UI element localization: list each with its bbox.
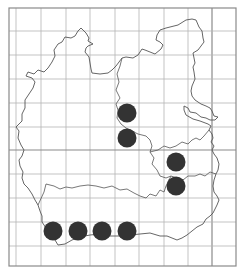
district-boundary [38,176,171,205]
occurrence-dot [118,222,137,241]
distribution-map [0,0,248,279]
occurrence-dot [167,153,186,172]
region-outline [16,19,219,245]
occurrence-dot [93,222,112,241]
occurrence-dot [118,104,137,123]
occurrence-dot [167,177,186,196]
occurrence-dot [69,222,88,241]
district-boundary [150,130,209,152]
occurrence-dot [44,222,63,241]
occurrence-dot [118,129,137,148]
